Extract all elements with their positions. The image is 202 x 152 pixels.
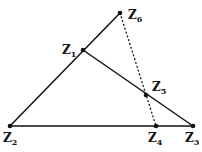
point-z4 — [154, 124, 159, 129]
segment-z6-z4-dotted — [120, 13, 156, 126]
point-z3 — [191, 124, 196, 129]
point-z1 — [81, 48, 86, 53]
point-z5 — [144, 93, 149, 98]
label-z3: Z3 — [185, 131, 200, 147]
label-z6: Z6 — [128, 8, 143, 24]
point-z2 — [8, 124, 13, 129]
geometry-diagram: Z6 Z1 Z5 Z2 Z4 Z3 — [0, 0, 202, 152]
segment-z2-z6 — [10, 13, 120, 126]
point-z6 — [118, 11, 123, 16]
label-z2: Z2 — [3, 131, 17, 147]
label-z1: Z1 — [62, 43, 76, 59]
label-z4: Z4 — [148, 131, 163, 147]
segment-z1-z3 — [83, 50, 193, 126]
label-z5: Z5 — [152, 80, 166, 96]
